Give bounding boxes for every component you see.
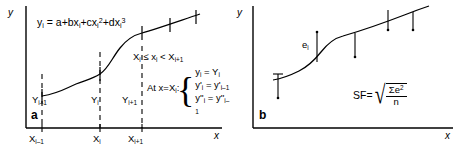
x-tick-label-i-minus-1: Xi–1: [29, 134, 44, 145]
residual-point-4: [387, 29, 390, 32]
residual-label: ei: [302, 40, 309, 51]
panel-b-tag: b: [259, 109, 266, 121]
y-label-i-minus-1: Yi–1: [32, 95, 47, 106]
panel-a-x-axis-label: x: [214, 131, 219, 141]
y-label-i-plus-1: Yi+1: [122, 95, 137, 106]
sf-fraction: Σe2 n: [386, 83, 407, 108]
spline-figure: y x a yi = a+bxi+cxi2+dxi3 Xi ≤ xi < Xi+…: [0, 0, 462, 148]
panel-b-y-axis-label: y: [237, 8, 242, 18]
continuity-eq-first-derivative: y'i = y'i–1: [195, 79, 231, 91]
sf-denominator: n: [386, 96, 407, 108]
panel-b-x-axis-label: x: [445, 131, 450, 141]
at-x-label: At x=Xi:: [147, 83, 179, 94]
x-tick-label-i: Xi: [93, 134, 101, 145]
y-label-i: Yi: [91, 95, 99, 106]
continuity-system: { yi = Yi y'i = y'i–1 y''i = y''i–1: [177, 66, 231, 115]
panel-b: y x b ei SF= √ Σe2 n: [231, 0, 462, 148]
panel-a: y x a yi = a+bxi+cxi2+dxi3 Xi ≤ xi < Xi+…: [0, 0, 231, 148]
left-brace-glyph: {: [177, 76, 194, 106]
residual-point-2: [316, 31, 319, 34]
residual-point-1: [277, 97, 280, 100]
radical-glyph: √: [374, 87, 385, 103]
x-tick-label-i-plus-1: Xi+1: [128, 134, 143, 145]
panel-a-tag: a: [31, 109, 38, 121]
smoothing-curve: [273, 6, 429, 80]
residual-point-3: [354, 56, 357, 59]
sf-numerator: Σe2: [386, 84, 407, 96]
continuity-equations: yi = Yi y'i = y'i–1 y''i = y''i–1: [195, 66, 231, 115]
residual-point-5: [412, 29, 415, 32]
sf-label: SF=: [353, 89, 373, 101]
panel-a-y-axis-label: y: [8, 8, 13, 18]
panel-b-graphic: [231, 0, 462, 148]
continuity-eq-second-derivative: y''i = y''i–1: [195, 92, 231, 116]
cubic-equation: yi = a+bxi+cxi2+dxi3: [37, 17, 125, 30]
continuity-eq-value: yi = Yi: [195, 66, 231, 78]
sf-formula: SF= √ Σe2 n: [353, 83, 407, 108]
interval-condition: Xi ≤ xi < Xi+1: [133, 52, 183, 63]
